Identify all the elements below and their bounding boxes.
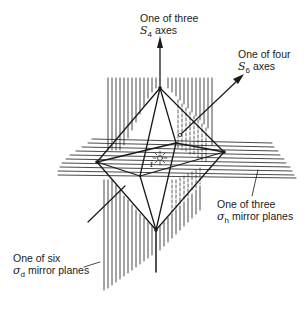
s6-axis-label: One of four S6 axes [238, 48, 291, 74]
s4-axis-label: One of three S4 axes [140, 12, 198, 38]
s6-label-line1: One of four [238, 48, 291, 60]
s6-suffix: axes [250, 60, 275, 72]
sigma-h-horizontal-hatching [58, 139, 296, 178]
sigma-h-subscript: h [225, 216, 229, 225]
octahedron-diagram: One of three S4 axes One of four S6 axes… [0, 0, 306, 310]
s6-symbol: S [238, 60, 246, 73]
s6-label-line2: S6 axes [238, 60, 291, 74]
sigma-d-suffix: mirror planes [25, 264, 89, 276]
s6-subscript: 6 [246, 66, 250, 75]
sigma-d-symbol: σ [13, 264, 21, 277]
sigma-d-subscript: d [21, 270, 25, 279]
sigma-h-suffix: mirror planes [229, 210, 293, 222]
sigma-h-label-line2: σh mirror planes [217, 210, 293, 224]
s4-subscript: 4 [148, 30, 152, 39]
s4-label-line2: S4 axes [140, 24, 198, 38]
sigma-h-leader-line [252, 170, 258, 196]
sigma-d-label-line2: σd mirror planes [13, 264, 89, 278]
sigma-h-label: One of three σh mirror planes [217, 198, 293, 224]
s4-label-line1: One of three [140, 12, 198, 24]
sigma-h-label-line1: One of three [217, 198, 293, 210]
sigma-d-label: One of six σd mirror planes [13, 252, 89, 278]
sigma-d-label-line1: One of six [13, 252, 89, 264]
sunburst-icon [153, 151, 167, 165]
sigma-h-symbol: σ [217, 210, 225, 223]
s4-suffix: axes [152, 24, 177, 36]
s4-symbol: S [140, 24, 148, 37]
inversion-center-label: i [150, 158, 153, 170]
